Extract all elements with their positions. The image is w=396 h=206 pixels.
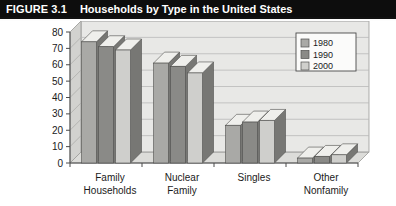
bar-front xyxy=(243,122,258,163)
bar-nuclear-family-2000 xyxy=(188,62,214,163)
legend-label-2000: 2000 xyxy=(313,61,333,71)
legend-label-1980: 1980 xyxy=(313,38,333,48)
ytick-label-70: 70 xyxy=(52,43,64,54)
legend-label-1990: 1990 xyxy=(313,50,333,60)
bar-front xyxy=(99,47,114,163)
figure-title-bar: FIGURE 3.1 Households by Type in the Uni… xyxy=(0,0,396,17)
bar-front xyxy=(154,63,169,163)
bar-front xyxy=(298,158,313,163)
bar-singles-2000 xyxy=(260,109,286,163)
ytick-label-80: 80 xyxy=(52,27,64,38)
legend-swatch-1980 xyxy=(301,39,309,47)
bar-front xyxy=(226,125,241,163)
bar-front xyxy=(116,50,131,163)
bar-side xyxy=(131,39,142,163)
bar-front xyxy=(82,42,97,163)
xcat-label-0-line1: Family xyxy=(95,172,124,183)
xcat-label-3-line2: Nonfamily xyxy=(304,185,348,196)
bar-chart-svg: 01020304050607080FamilyHouseholdsNuclear… xyxy=(0,21,396,206)
bar-front xyxy=(332,155,347,163)
bar-front xyxy=(171,66,186,163)
xcat-label-1-line1: Nuclear xyxy=(165,172,200,183)
figure-title: Households by Type in the United States xyxy=(80,3,293,15)
xcat-label-2-line1: Singles xyxy=(238,172,271,183)
ytick-label-30: 30 xyxy=(52,108,64,119)
figure-number: FIGURE 3.1 xyxy=(6,3,67,15)
ytick-label-40: 40 xyxy=(52,92,64,103)
bar-side xyxy=(203,62,214,163)
ytick-label-0: 0 xyxy=(57,158,63,169)
title-underline xyxy=(0,17,396,19)
chart-area: 01020304050607080FamilyHouseholdsNuclear… xyxy=(0,21,396,206)
legend-swatch-1990 xyxy=(301,51,309,59)
figure-container: FIGURE 3.1 Households by Type in the Uni… xyxy=(0,0,396,206)
legend-swatch-2000 xyxy=(301,62,309,70)
ytick-label-20: 20 xyxy=(52,125,64,136)
bar-family-households-2000 xyxy=(116,39,142,163)
xcat-label-3-line1: Other xyxy=(313,172,339,183)
xcat-label-0-line2: Households xyxy=(84,185,137,196)
bar-front xyxy=(188,73,203,163)
bar-front xyxy=(315,156,330,163)
ytick-label-50: 50 xyxy=(52,76,64,87)
ytick-label-10: 10 xyxy=(52,141,64,152)
bar-front xyxy=(260,120,275,163)
ytick-label-60: 60 xyxy=(52,59,64,70)
xcat-label-1-line2: Family xyxy=(167,185,196,196)
